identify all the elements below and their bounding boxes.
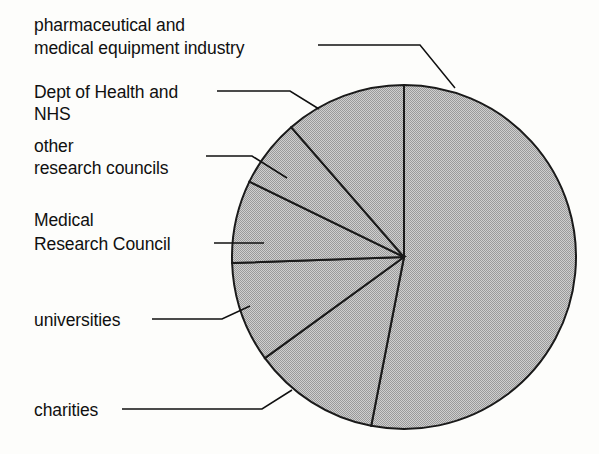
label-dept-of-health-line1: Dept of Health and — [34, 82, 178, 102]
label-other-research-councils-line1: other — [34, 136, 74, 156]
leader-line-universities — [152, 306, 250, 319]
label-universities: universities — [34, 310, 121, 330]
leader-line-dept-of-health — [217, 91, 319, 109]
callout-labels: pharmaceutical and medical equipment ind… — [34, 15, 245, 420]
pie-chart-svg: pharmaceutical and medical equipment ind… — [0, 0, 599, 454]
label-dept-of-health-line2: NHS — [34, 104, 71, 124]
label-medical-research-council-line2: Research Council — [34, 234, 171, 254]
label-other-research-councils-line2: research councils — [34, 158, 169, 178]
pie-slices — [232, 85, 576, 429]
label-charities: charities — [34, 400, 99, 420]
label-medical-research-council-line1: Medical — [34, 210, 94, 230]
pie-chart-figure: pharmaceutical and medical equipment ind… — [0, 0, 599, 454]
label-pharmaceutical-line1: pharmaceutical and — [34, 15, 185, 35]
label-pharmaceutical-line2: medical equipment industry — [34, 38, 245, 58]
leader-line-charities — [122, 390, 292, 409]
leader-line-pharmaceutical — [318, 45, 455, 88]
